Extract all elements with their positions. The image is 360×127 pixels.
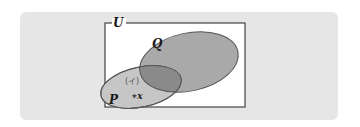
region-label: (イ) [125,77,139,86]
venn-diagram: U Q P (イ) ∗x [0,0,360,127]
set-p-label: P [108,93,119,107]
set-q-label: Q [152,37,163,51]
element-x-label: ∗x [131,91,143,101]
universe-label: U [113,16,125,30]
